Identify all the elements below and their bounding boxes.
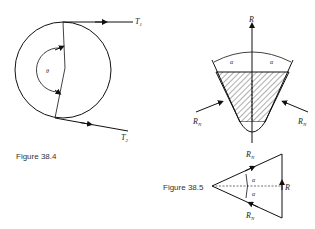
label-rn-bottom: RN bbox=[245, 211, 255, 221]
label-alpha-lower: α bbox=[252, 191, 256, 197]
figure-38-5-force-triangle: RN RN R α α bbox=[212, 150, 290, 221]
label-t1: T1 bbox=[135, 17, 142, 27]
label-theta: θ bbox=[46, 68, 49, 74]
label-r-triangle: R bbox=[284, 183, 290, 192]
label-r: R bbox=[248, 15, 254, 24]
figure-38-5-cross-section: R α α RN RN bbox=[192, 15, 308, 143]
label-rn-left: RN bbox=[192, 117, 202, 127]
label-alpha-left: α bbox=[230, 59, 234, 65]
caption-figure-38-4: Figure 38.4 bbox=[16, 152, 56, 161]
label-alpha-right: α bbox=[270, 59, 274, 65]
label-alpha-upper: α bbox=[252, 177, 256, 183]
label-t2: T2 bbox=[121, 133, 128, 143]
label-rn-top: RN bbox=[245, 150, 255, 160]
label-rn-right: RN bbox=[297, 117, 307, 127]
caption-figure-38-5: Figure 38.5 bbox=[163, 183, 203, 192]
figure-38-4-pulley: T1 T2 θ bbox=[15, 17, 142, 143]
diagram-canvas: T1 T2 θ R α α RN RN RN RN R α α bbox=[0, 0, 315, 229]
